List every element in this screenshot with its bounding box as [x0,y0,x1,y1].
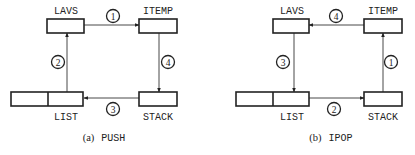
label-stack: STACK [368,112,398,123]
step-4-marker: 4 [162,56,175,69]
label-list: LIST [54,112,78,123]
svg-text:1: 1 [389,58,394,68]
step-2-marker: 2 [328,103,341,116]
svg-text:2: 2 [56,58,61,68]
step-3-marker: 3 [277,56,290,69]
label-list: LIST [280,112,304,123]
label-stack: STACK [143,112,173,123]
step-2-marker: 2 [52,56,65,69]
step-1-marker: 1 [385,56,398,69]
label-lavs: LAVS [54,6,78,17]
step-1-marker: 1 [107,10,120,23]
svg-text:3: 3 [281,58,286,68]
svg-text:2: 2 [332,105,337,115]
svg-text:3: 3 [111,105,116,115]
caption-push: (a) PUSH [83,127,126,144]
step-3-marker: 3 [107,103,120,116]
svg-text:4: 4 [334,12,339,22]
label-lavs: LAVS [280,6,304,17]
box-itemp [139,19,177,33]
diagram-push: LAVS ITEMP LIST STACK 1 2 3 4 [11,6,177,144]
box-lavs [273,19,309,33]
box-list [11,92,83,106]
svg-text:1: 1 [111,12,116,22]
box-itemp [364,19,402,33]
box-stack [139,92,177,106]
box-stack [364,92,402,106]
caption-ipop: (b) IPOP [309,127,352,144]
label-itemp: ITEMP [368,6,398,17]
box-lavs [47,19,84,33]
diagram-canvas: LAVS ITEMP LIST STACK 1 2 3 4 [0,0,415,155]
diagram-ipop: LAVS ITEMP LIST STACK 1 2 3 4 [236,6,402,144]
label-itemp: ITEMP [143,6,173,17]
svg-text:4: 4 [166,58,171,68]
step-4-marker: 4 [330,10,343,23]
